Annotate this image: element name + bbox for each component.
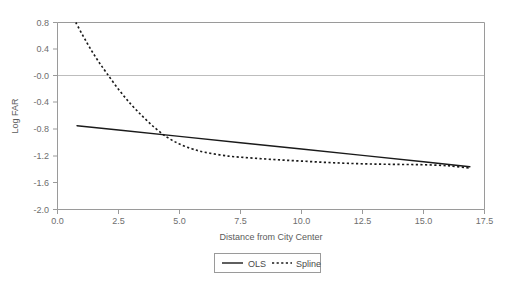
y-tick-label: -0.4 bbox=[33, 97, 49, 107]
y-tick-label: -0.0 bbox=[33, 71, 49, 81]
x-tick-label: 10.0 bbox=[293, 216, 311, 226]
y-tick-label: 0.8 bbox=[36, 18, 49, 28]
chart-svg: 0.8 0.4 -0.0 -0.4 -0.8 -1.2 -1.6 -2.0 0.… bbox=[0, 0, 508, 288]
chart-legend: OLS Spline bbox=[215, 254, 322, 273]
x-tick-marks bbox=[58, 210, 485, 215]
frame-rect bbox=[58, 23, 485, 210]
y-tick-marks bbox=[53, 23, 58, 210]
y-tick-label: -2.0 bbox=[33, 205, 49, 215]
legend-label-spline: Spline bbox=[296, 259, 321, 269]
x-tick-label: 12.5 bbox=[354, 216, 372, 226]
y-tick-label: -0.8 bbox=[33, 124, 49, 134]
data-series-group bbox=[76, 23, 470, 169]
x-tick-label: 7.5 bbox=[234, 216, 247, 226]
x-tick-label: 2.5 bbox=[112, 216, 125, 226]
x-tick-label: 5.0 bbox=[173, 216, 186, 226]
x-tick-labels: 0.0 2.5 5.0 7.5 10.0 12.5 15.0 17.5 bbox=[51, 216, 493, 226]
series-ols-line bbox=[77, 126, 470, 167]
y-tick-label: 0.4 bbox=[36, 44, 49, 54]
y-axis-title: Log FAR bbox=[10, 98, 20, 134]
y-tick-label: -1.2 bbox=[33, 151, 49, 161]
y-tick-label: -1.6 bbox=[33, 178, 49, 188]
x-axis-title: Distance from City Center bbox=[219, 232, 322, 242]
x-tick-label: 15.0 bbox=[415, 216, 433, 226]
legend-label-ols: OLS bbox=[248, 259, 266, 269]
y-tick-labels: 0.8 0.4 -0.0 -0.4 -0.8 -1.2 -1.6 -2.0 bbox=[33, 18, 49, 215]
x-tick-label: 17.5 bbox=[476, 216, 494, 226]
x-tick-label: 0.0 bbox=[51, 216, 64, 226]
chart-figure: 0.8 0.4 -0.0 -0.4 -0.8 -1.2 -1.6 -2.0 0.… bbox=[0, 0, 508, 288]
plot-frame bbox=[58, 23, 485, 210]
